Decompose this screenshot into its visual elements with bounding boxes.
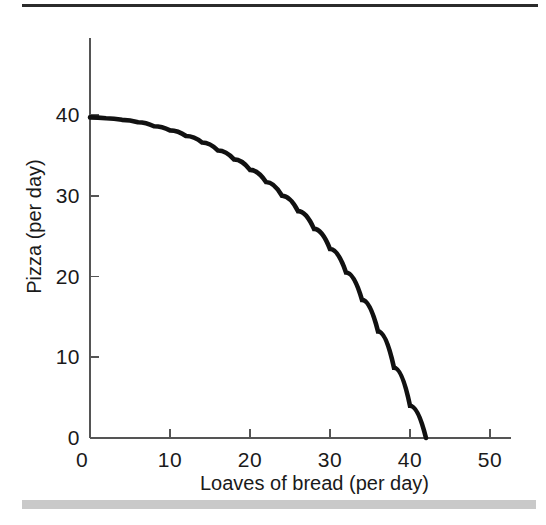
x-tick-label: 50 <box>478 448 502 472</box>
y-tick-label: 0 <box>36 426 80 450</box>
ppf-plot-area <box>0 0 546 525</box>
ppf-figure: 01020304001020304050 Loaves of bread (pe… <box>0 0 546 525</box>
x-tick-label: 0 <box>76 448 88 472</box>
x-tick-label: 30 <box>318 448 342 472</box>
bottom-grey-bar <box>22 500 536 509</box>
x-tick-label: 40 <box>398 448 422 472</box>
y-axis-ticks <box>90 115 99 357</box>
x-tick-label: 10 <box>158 448 182 472</box>
y-tick-label: 10 <box>36 345 80 369</box>
y-tick-label: 40 <box>36 103 80 127</box>
x-tick-label: 20 <box>238 448 262 472</box>
ppf-curve-line <box>90 117 426 438</box>
x-axis-ticks <box>170 429 490 438</box>
y-axis-title: Pizza (per day) <box>23 127 46 327</box>
x-axis-title: Loaves of bread (per day) <box>200 472 429 495</box>
